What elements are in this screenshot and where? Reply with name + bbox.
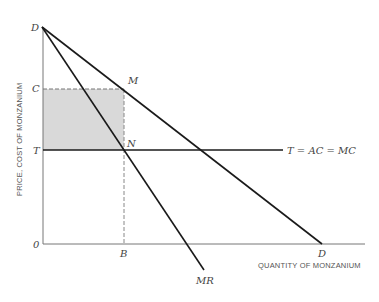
profit-area	[43, 89, 124, 150]
y-axis-title: PRICE, COST OF MONZANIUM	[15, 83, 24, 196]
label-cost-line: T = AC = MC	[287, 145, 356, 156]
label-price-c: C	[32, 83, 40, 94]
label-point-n: N	[126, 138, 137, 149]
label-point-m: M	[127, 75, 139, 86]
label-demand-bottom: D	[317, 248, 326, 259]
label-cost-t: T	[33, 145, 41, 156]
x-axis-title: QUANTITY OF MONZANIUM	[258, 261, 361, 270]
label-demand-top: D	[30, 22, 39, 33]
label-mr: MR	[195, 275, 214, 286]
monopoly-diagram: D C T 0 M N B D T = AC = MC MR QUANTITY …	[0, 0, 379, 302]
label-origin: 0	[33, 239, 40, 250]
label-quantity-b: B	[119, 248, 127, 259]
